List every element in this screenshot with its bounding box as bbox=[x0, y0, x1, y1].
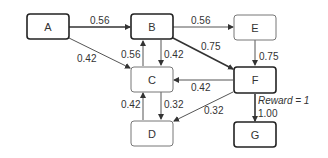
edge-c-b: 0.56 bbox=[121, 41, 143, 66]
edge-label-e-f: 0.75 bbox=[259, 51, 279, 62]
edge-b-c: 0.42 bbox=[161, 40, 184, 65]
node-label-d: D bbox=[148, 128, 156, 140]
edge-label-a-b: 0.56 bbox=[90, 15, 110, 26]
node-label-f: F bbox=[252, 74, 259, 86]
edge-a-b: 0.56 bbox=[69, 15, 130, 27]
node-label-c: C bbox=[148, 74, 156, 86]
node-c: C bbox=[131, 67, 173, 92]
edge-b-e: 0.56 bbox=[173, 15, 233, 27]
node-b: B bbox=[131, 14, 173, 39]
edge-label-b-f: 0.75 bbox=[201, 41, 221, 52]
edge-label-c-b: 0.56 bbox=[121, 49, 141, 60]
node-e: E bbox=[234, 15, 276, 40]
node-f: F bbox=[234, 67, 276, 93]
edge-e-f: 0.75 bbox=[255, 40, 279, 65]
edge-label-f-g: 1.00 bbox=[258, 108, 278, 119]
edge-label-a-c: 0.42 bbox=[77, 53, 97, 64]
node-a: A bbox=[27, 14, 69, 39]
edge-f-c: 0.42 bbox=[174, 80, 233, 93]
edge-d-c: 0.42 bbox=[121, 93, 143, 120]
edge-label-b-e: 0.56 bbox=[191, 15, 211, 26]
edge-label-b-c: 0.42 bbox=[164, 49, 184, 60]
edge-label-d-c: 0.42 bbox=[121, 99, 141, 110]
edge-label-c-d: 0.32 bbox=[164, 99, 184, 110]
node-label-b: B bbox=[148, 21, 155, 33]
node-label-e: E bbox=[251, 22, 258, 34]
edge-c-d: 0.32 bbox=[161, 92, 184, 119]
node-d: D bbox=[131, 121, 173, 146]
node-g: G bbox=[234, 122, 276, 147]
edge-label-f-d: 0.32 bbox=[204, 105, 224, 116]
node-label-g: G bbox=[251, 129, 260, 141]
node-label-a: A bbox=[44, 21, 52, 33]
state-graph: 0.56 0.42 0.56 0.75 0.42 0.56 0.75 0.42 … bbox=[0, 0, 328, 158]
edge-label-f-c: 0.42 bbox=[191, 82, 211, 93]
reward-annotation: Reward = 1 bbox=[258, 95, 309, 106]
